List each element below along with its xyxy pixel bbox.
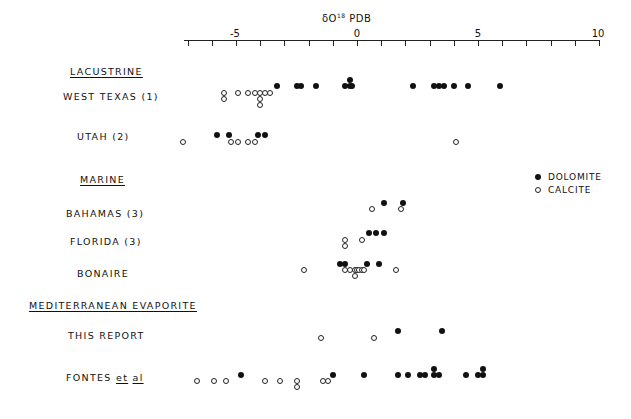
dolomite-point bbox=[381, 230, 387, 236]
calcite-point bbox=[235, 90, 241, 96]
dolomite-point bbox=[480, 372, 486, 378]
axis-title-suffix: PDB bbox=[346, 13, 372, 24]
calcite-point bbox=[194, 378, 200, 384]
calcite-point bbox=[228, 139, 234, 145]
calcite-point bbox=[398, 206, 404, 212]
dolomite-point bbox=[274, 83, 280, 89]
dolomite-point bbox=[349, 83, 355, 89]
dolomite-point bbox=[255, 132, 261, 138]
calcite-point bbox=[245, 139, 251, 145]
x-axis-tick bbox=[309, 40, 310, 46]
dolomite-point bbox=[330, 372, 336, 378]
dolomite-point bbox=[410, 83, 416, 89]
calcite-point bbox=[257, 102, 263, 108]
row-label-fontes: FONTES et al bbox=[66, 372, 144, 383]
x-axis-tick bbox=[430, 40, 431, 46]
calcite-point bbox=[342, 243, 348, 249]
row-label-utah: UTAH (2) bbox=[77, 131, 130, 142]
x-axis-tick bbox=[357, 40, 358, 46]
row-label-bahamas: BAHAMAS (3) bbox=[66, 208, 144, 219]
calcite-point bbox=[252, 139, 258, 145]
calcite-point bbox=[369, 206, 375, 212]
legend-label-calcite: CALCITE bbox=[548, 185, 591, 195]
dolomite-point bbox=[463, 372, 469, 378]
dolomite-point bbox=[497, 83, 503, 89]
row-label-west-texas: WEST TEXAS (1) bbox=[63, 91, 159, 102]
dolomite-point bbox=[238, 372, 244, 378]
row-label-florida: FLORIDA (3) bbox=[70, 236, 142, 247]
dolomite-point bbox=[376, 261, 382, 267]
calcite-point bbox=[301, 267, 307, 273]
calcite-point bbox=[325, 378, 331, 384]
dolomite-point bbox=[480, 366, 486, 372]
calcite-point bbox=[352, 273, 358, 279]
legend-label-dolomite: DOLOMITE bbox=[548, 172, 602, 182]
calcite-point bbox=[277, 378, 283, 384]
tick-label: 5 bbox=[475, 28, 481, 39]
x-axis-tick bbox=[188, 40, 189, 46]
x-axis-tick bbox=[526, 40, 527, 46]
x-axis-tick bbox=[236, 40, 237, 46]
dolomite-point bbox=[439, 328, 445, 334]
fontes-text: FONTES bbox=[66, 372, 112, 383]
dolomite-point bbox=[431, 366, 437, 372]
dolomite-point bbox=[214, 132, 220, 138]
dolomite-point bbox=[313, 83, 319, 89]
dolomite-point bbox=[422, 372, 428, 378]
x-axis-tick bbox=[381, 40, 382, 46]
x-axis-tick bbox=[599, 40, 600, 46]
x-axis-tick bbox=[551, 40, 552, 46]
calcite-point bbox=[371, 335, 377, 341]
filled-circle-icon bbox=[535, 174, 541, 180]
dolomite-point bbox=[262, 132, 268, 138]
dolomite-point bbox=[373, 230, 379, 236]
calcite-point bbox=[245, 90, 251, 96]
x-axis-tick bbox=[478, 40, 479, 46]
x-axis-tick bbox=[333, 40, 334, 46]
calcite-point bbox=[294, 384, 300, 390]
x-axis-tick bbox=[212, 40, 213, 46]
calcite-point bbox=[359, 237, 365, 243]
dolomite-point bbox=[298, 83, 304, 89]
group-label-marine: MARINE bbox=[80, 174, 125, 185]
calcite-point bbox=[221, 96, 227, 102]
dolomite-point bbox=[405, 372, 411, 378]
x-axis-tick bbox=[284, 40, 285, 46]
axis-title: δO18 PDB bbox=[322, 12, 371, 24]
calcite-point bbox=[262, 378, 268, 384]
calcite-point bbox=[235, 139, 241, 145]
x-axis-tick bbox=[454, 40, 455, 46]
x-axis-tick bbox=[575, 40, 576, 46]
group-label-mediterranean: MEDITERRANEAN EVAPORITE bbox=[29, 300, 197, 311]
legend-item-calcite: CALCITE bbox=[535, 183, 602, 196]
dolomite-point bbox=[441, 83, 447, 89]
axis-title-sup: 18 bbox=[337, 12, 346, 19]
calcite-point bbox=[223, 378, 229, 384]
fontes-al: al bbox=[133, 372, 144, 383]
legend-item-dolomite: DOLOMITE bbox=[535, 170, 602, 183]
x-axis-line bbox=[184, 40, 599, 41]
row-label-this-report: THIS REPORT bbox=[68, 330, 145, 341]
dolomite-point bbox=[451, 83, 457, 89]
calcite-point bbox=[180, 139, 186, 145]
x-axis-tick bbox=[502, 40, 503, 46]
fontes-et: et bbox=[116, 372, 128, 383]
tick-label: 10 bbox=[592, 28, 605, 39]
calcite-point bbox=[211, 378, 217, 384]
dolomite-point bbox=[366, 230, 372, 236]
row-label-bonaire: BONAIRE bbox=[77, 268, 129, 279]
dolomite-point bbox=[465, 83, 471, 89]
calcite-point bbox=[453, 139, 459, 145]
group-label-lacustrine: LACUSTRINE bbox=[70, 66, 143, 77]
calcite-point bbox=[318, 335, 324, 341]
axis-title-prefix: δO bbox=[322, 13, 337, 24]
dolomite-point bbox=[226, 132, 232, 138]
calcite-point bbox=[267, 90, 273, 96]
dolomite-point bbox=[381, 200, 387, 206]
x-axis-tick bbox=[405, 40, 406, 46]
legend: DOLOMITE CALCITE bbox=[535, 170, 602, 196]
dolomite-point bbox=[361, 372, 367, 378]
calcite-point bbox=[393, 267, 399, 273]
x-axis-tick bbox=[260, 40, 261, 46]
calcite-point bbox=[361, 267, 367, 273]
